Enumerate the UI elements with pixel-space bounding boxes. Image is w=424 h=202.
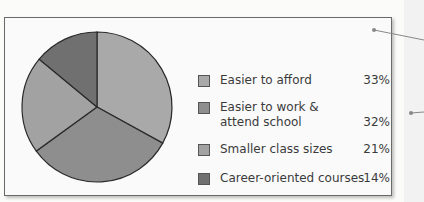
callout-line (411, 112, 424, 113)
callout-line (374, 30, 424, 40)
callout-lines (0, 0, 424, 202)
